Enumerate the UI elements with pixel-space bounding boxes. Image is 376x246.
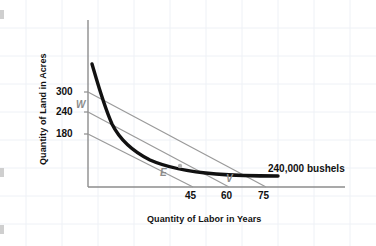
isocost-line-v xyxy=(88,134,193,187)
y-tick-label-240: 240 xyxy=(56,106,73,117)
page-edge-marks xyxy=(0,10,4,234)
annotation-label-w: W xyxy=(76,99,85,110)
x-tick-label-60: 60 xyxy=(221,190,232,201)
tangency-point-e-marker xyxy=(178,164,182,168)
y-tick-label-300: 300 xyxy=(56,86,73,97)
y-tick-label-180: 180 xyxy=(56,128,73,139)
isoquant-curve xyxy=(92,64,278,176)
x-tick-label-75: 75 xyxy=(258,190,269,201)
background-grid xyxy=(0,0,376,246)
x-tick-label-45: 45 xyxy=(185,190,196,201)
isocost-line-tangent xyxy=(88,112,229,187)
isoquant-series-label: 240,000 bushels xyxy=(268,163,345,174)
chart-plot-area xyxy=(0,0,376,246)
y-axis-title: Quantity of Land in Acres xyxy=(38,53,48,165)
axis-lines xyxy=(88,20,345,187)
x-axis-title: Quantity of Labor in Years xyxy=(147,214,261,224)
annotation-label-e: E xyxy=(160,167,167,178)
chart-container: Quantity of Land in Acres Quantity of La… xyxy=(0,0,376,246)
annotation-label-v: V xyxy=(226,173,233,184)
